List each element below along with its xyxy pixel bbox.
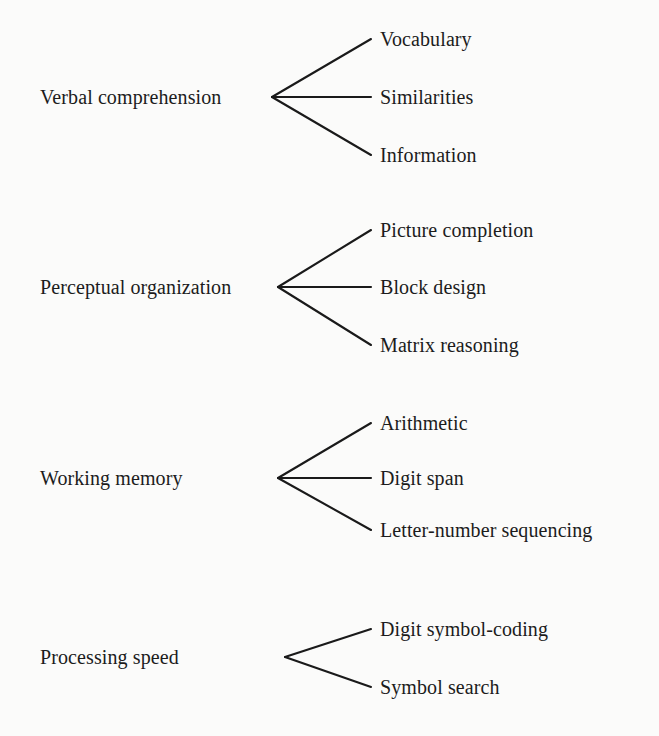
factor-label-perceptual-organization: Perceptual organization (40, 277, 231, 297)
subtest-label-vocabulary: Vocabulary (380, 29, 472, 49)
factor-label-verbal-comprehension: Verbal comprehension (40, 87, 221, 107)
subtest-label-letter-number-sequencing: Letter-number sequencing (380, 520, 592, 540)
tree-diagram: Verbal comprehension Vocabulary Similari… (0, 0, 659, 736)
factor-label-processing-speed: Processing speed (40, 647, 179, 667)
subtest-label-similarities: Similarities (380, 87, 473, 107)
subtest-label-symbol-search: Symbol search (380, 677, 500, 697)
subtest-label-block-design: Block design (380, 277, 486, 297)
subtest-label-picture-completion: Picture completion (380, 220, 533, 240)
connector-lines (0, 0, 659, 736)
subtest-label-digit-symbol-coding: Digit symbol-coding (380, 619, 548, 639)
subtest-label-digit-span: Digit span (380, 468, 464, 488)
subtest-label-information: Information (380, 145, 477, 165)
subtest-label-matrix-reasoning: Matrix reasoning (380, 335, 519, 355)
factor-label-working-memory: Working memory (40, 468, 183, 488)
subtest-label-arithmetic: Arithmetic (380, 413, 468, 433)
